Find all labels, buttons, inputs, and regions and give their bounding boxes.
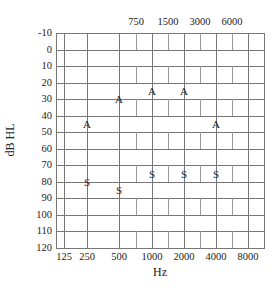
x-tick-label-top: 1500 [158, 17, 179, 28]
x-tick-label-top: 750 [128, 17, 144, 28]
grid-line-half-octave [136, 231, 137, 248]
grid-line-half-octave [200, 132, 201, 149]
grid-line-half-octave [168, 33, 169, 50]
grid-line-vertical [216, 33, 217, 248]
x-axis-title: Hz [153, 265, 167, 280]
y-tick-label: 0 [22, 45, 52, 56]
y-tick-label: 90 [22, 193, 52, 204]
y-tick-label: 20 [22, 78, 52, 89]
grid-line-vertical [184, 33, 185, 248]
x-tick-label: 8000 [238, 252, 259, 263]
grid-line-half-octave [232, 66, 233, 83]
grid-border-right [264, 33, 265, 248]
data-marker-s: S [116, 185, 122, 196]
grid-line-vertical [248, 33, 249, 248]
y-tick-label: 40 [22, 111, 52, 122]
y-tick-label: 50 [22, 127, 52, 138]
x-tick-label: 500 [111, 252, 127, 263]
x-tick-label: 1000 [142, 252, 163, 263]
grid-line-half-octave [168, 165, 169, 182]
grid-line-half-octave [232, 198, 233, 215]
y-tick-label: 100 [22, 210, 52, 221]
grid-line-half-octave [168, 99, 169, 116]
grid-line-half-octave [200, 99, 201, 116]
x-tick-label: 4000 [206, 252, 227, 263]
grid-line-half-octave [200, 198, 201, 215]
data-marker-s: S [84, 176, 90, 187]
grid-line-half-octave [136, 66, 137, 83]
grid-line-half-octave [232, 99, 233, 116]
grid-line-half-octave [232, 132, 233, 149]
y-axis-title: dB HL [3, 124, 18, 157]
grid-line-vertical [152, 33, 153, 248]
data-marker-a: A [212, 118, 220, 129]
grid-line-half-octave [232, 165, 233, 182]
grid-line-half-octave [136, 33, 137, 50]
data-marker-s: S [181, 168, 187, 179]
grid-line-half-octave [200, 33, 201, 50]
data-marker-a: A [180, 85, 188, 96]
data-marker-a: A [115, 94, 123, 105]
grid-line-half-octave [232, 231, 233, 248]
y-tick-label: 30 [22, 94, 52, 105]
data-marker-a: A [148, 85, 156, 96]
x-tick-label: 125 [56, 252, 72, 263]
y-tick-label: 120 [22, 243, 52, 254]
grid-line-half-octave [168, 66, 169, 83]
grid-line-half-octave [200, 165, 201, 182]
grid-line-half-octave [136, 165, 137, 182]
grid-line-half-octave [200, 231, 201, 248]
y-tick-label: -10 [22, 28, 52, 39]
data-marker-a: A [83, 118, 91, 129]
x-tick-label: 250 [79, 252, 95, 263]
y-tick-label: 60 [22, 144, 52, 155]
grid-line-vertical [64, 33, 65, 248]
y-tick-label: 70 [22, 160, 52, 171]
grid-line-vertical [87, 33, 88, 248]
grid-line-half-octave [168, 231, 169, 248]
grid-line-half-octave [168, 198, 169, 215]
grid-line-half-octave [136, 132, 137, 149]
y-tick-label: 80 [22, 177, 52, 188]
grid-line-vertical [119, 33, 120, 248]
y-tick-label: 10 [22, 61, 52, 72]
grid-line-half-octave [232, 33, 233, 50]
grid-line-half-octave [136, 99, 137, 116]
y-tick-label: 110 [22, 226, 52, 237]
x-tick-label-top: 3000 [190, 17, 211, 28]
data-marker-s: S [149, 168, 155, 179]
grid-line-horizontal [56, 248, 265, 249]
grid-line-half-octave [200, 66, 201, 83]
x-tick-label: 2000 [174, 252, 195, 263]
data-marker-s: S [213, 168, 219, 179]
grid-border-left [56, 33, 57, 248]
grid-line-half-octave [168, 132, 169, 149]
grid-line-half-octave [136, 198, 137, 215]
x-tick-label-top: 6000 [222, 17, 243, 28]
